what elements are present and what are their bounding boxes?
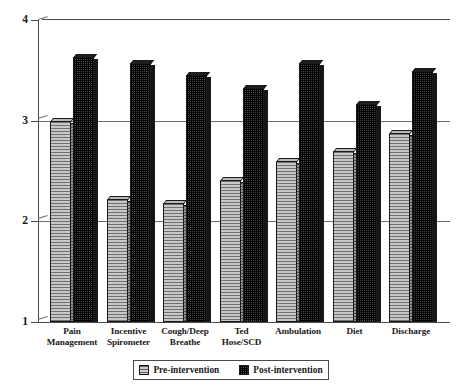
bar-side-face xyxy=(377,106,381,322)
legend-swatch-post-icon xyxy=(239,365,249,375)
bar-pre-0 xyxy=(50,118,71,322)
bar-side-face xyxy=(320,65,324,322)
bar-front-face xyxy=(163,203,184,322)
plot-area xyxy=(38,18,450,324)
x-axis-label-6: Discharge xyxy=(371,326,451,337)
y-tick-2 xyxy=(31,221,38,222)
bar-top-cap xyxy=(333,148,357,152)
bar-front-face xyxy=(412,71,433,322)
legend-item-pre[interactable]: Pre-intervention xyxy=(139,365,219,375)
bar-front-face xyxy=(130,63,151,322)
y-axis-label-4: 4 xyxy=(6,14,28,26)
bar-side-face xyxy=(151,65,155,322)
bar-post-2 xyxy=(186,72,207,322)
bar-front-face xyxy=(186,75,207,322)
y-axis-label-3: 3 xyxy=(6,115,28,127)
bar-front-face xyxy=(50,121,71,322)
y-tick-3 xyxy=(31,121,38,122)
bar-top-cap xyxy=(389,130,413,134)
legend-item-post[interactable]: Post-intervention xyxy=(239,365,322,375)
bar-top-cap xyxy=(220,177,244,181)
bar-pre-1 xyxy=(107,196,128,322)
bar-top-cap xyxy=(73,54,97,58)
bar-post-4 xyxy=(299,60,320,322)
x-axis-label-line: Discharge xyxy=(371,326,451,337)
bar-side-face xyxy=(207,77,211,322)
bar-front-face xyxy=(389,133,410,322)
bar-top-cap xyxy=(163,200,187,204)
bar-top-cap xyxy=(299,60,323,64)
bar-front-face xyxy=(356,104,377,322)
y-axis-label-2: 2 xyxy=(6,215,28,227)
bar-front-face xyxy=(243,88,264,322)
legend-label: Post-intervention xyxy=(253,365,322,375)
bar-front-face xyxy=(73,57,94,322)
chart-legend: Pre-interventionPost-intervention xyxy=(133,360,329,380)
bar-top-cap xyxy=(186,72,210,76)
bar-pre-4 xyxy=(276,158,297,322)
bar-front-face xyxy=(299,63,320,322)
bar-pre-3 xyxy=(220,177,241,322)
bar-side-face xyxy=(94,59,98,322)
bar-front-face xyxy=(220,180,241,322)
bar-side-face xyxy=(433,73,437,322)
x-axis-label-line: Hose/SCD xyxy=(202,337,282,348)
bar-post-0 xyxy=(73,54,94,322)
bar-top-cap xyxy=(107,196,131,200)
bar-front-face xyxy=(107,199,128,322)
bar-top-cap xyxy=(130,60,154,64)
bar-pre-2 xyxy=(163,200,184,322)
bar-pre-5 xyxy=(333,148,354,322)
bar-pre-6 xyxy=(389,130,410,322)
bar-top-cap xyxy=(276,158,300,162)
bar-top-cap xyxy=(50,118,74,122)
bar-front-face xyxy=(276,161,297,322)
bar-side-face xyxy=(264,90,268,322)
bar-post-3 xyxy=(243,85,264,322)
bar-post-5 xyxy=(356,101,377,322)
x-axis-labels: PainManagementIncentiveSpirometerCough/D… xyxy=(0,326,458,356)
bar-front-face xyxy=(333,151,354,322)
bar-top-cap xyxy=(356,101,380,105)
bar-post-1 xyxy=(130,60,151,322)
bar-post-6 xyxy=(412,68,433,322)
legend-label: Pre-intervention xyxy=(153,365,219,375)
bar-chart: 1234 PainManagementIncentiveSpirometerCo… xyxy=(0,0,458,385)
bar-top-cap xyxy=(412,68,436,72)
bar-top-cap xyxy=(243,85,267,89)
legend-swatch-pre-icon xyxy=(139,365,149,375)
y-tick-1 xyxy=(31,322,38,323)
y-tick-4 xyxy=(31,20,38,21)
